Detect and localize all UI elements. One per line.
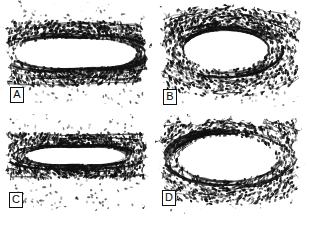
micrograph-d [155, 114, 305, 214]
panel-label-c: C [9, 192, 23, 208]
micrograph-b [155, 0, 305, 111]
panel-b: B [155, 0, 305, 111]
panel-c: C [0, 114, 152, 214]
figure-root: A B C D [0, 0, 311, 225]
panel-label-a: A [10, 87, 24, 103]
panel-label-d: D [162, 190, 176, 206]
panel-label-b: B [163, 89, 177, 105]
panel-grid: A B C D [0, 0, 311, 225]
panel-d: D [155, 114, 305, 214]
panel-a: A [0, 0, 152, 111]
